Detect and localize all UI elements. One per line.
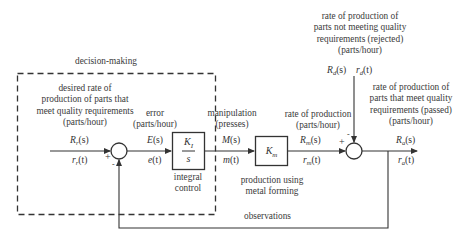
error-summing-junction bbox=[111, 143, 127, 159]
error-sum-minus-sign: - bbox=[112, 160, 115, 170]
decision-making-label: decision-making bbox=[75, 56, 137, 67]
rejected-laplace-symbol: Rd(s) bbox=[327, 64, 346, 75]
manipulation-desc-line-1: manipulation bbox=[200, 108, 264, 119]
manipulation-desc-line-2: (presses) bbox=[200, 119, 264, 130]
manipulation-description: manipulation (presses) bbox=[200, 108, 264, 131]
output-sum-minus-sign: - bbox=[347, 130, 350, 140]
production-desc-line-2: (parts/hour) bbox=[278, 120, 358, 131]
process-caption-line-1: production using bbox=[232, 175, 312, 186]
reference-laplace-symbol: Rr(s) bbox=[70, 134, 89, 145]
production-laplace-symbol: Rm(s) bbox=[300, 134, 321, 145]
controller-caption-line-2: control bbox=[163, 183, 213, 194]
reference-desc-line-3: meet quality requirements bbox=[25, 106, 145, 117]
rejected-desc-line-2: parts not meeting quality bbox=[300, 22, 420, 33]
reference-desc-line-1: desired rate of bbox=[25, 83, 145, 94]
rejected-desc-line-4: (parts/hour) bbox=[300, 45, 420, 56]
reference-desc-line-2: production of parts that bbox=[25, 94, 145, 105]
passed-desc-line-3: requirements (passed) bbox=[355, 105, 467, 116]
passed-time-symbol: ra(t) bbox=[398, 154, 414, 165]
reference-time-symbol: rr(t) bbox=[72, 154, 87, 165]
reference-description: desired rate of production of parts that… bbox=[25, 83, 145, 128]
rejected-time-symbol: rd(t) bbox=[356, 64, 372, 75]
passed-desc-line-2: parts that meet quality bbox=[355, 93, 467, 104]
error-desc-line-2: (parts/hour) bbox=[130, 119, 180, 130]
error-desc-line-1: error bbox=[130, 108, 180, 119]
rejected-description: rate of production of parts not meeting … bbox=[300, 11, 420, 56]
controller-denominator: s bbox=[172, 153, 205, 164]
passed-desc-line-4: (parts/hour) bbox=[355, 116, 467, 127]
controller-caption-line-1: integral bbox=[163, 172, 213, 183]
rejected-desc-line-3: requirements (rejected) bbox=[300, 34, 420, 45]
error-time-symbol: e(t) bbox=[148, 154, 161, 165]
passed-laplace-symbol: Ra(s) bbox=[396, 134, 415, 145]
process-caption: production using metal forming bbox=[232, 175, 312, 198]
production-desc-line-1: rate of production bbox=[278, 109, 358, 120]
passed-description: rate of production of parts that meet qu… bbox=[355, 82, 467, 127]
controller-numerator: KI bbox=[172, 136, 205, 150]
feedback-label: observations bbox=[244, 211, 291, 222]
process-gain: Km bbox=[255, 145, 288, 159]
error-description: error (parts/hour) bbox=[130, 108, 180, 131]
passed-desc-line-1: rate of production of bbox=[355, 82, 467, 93]
manipulation-laplace-symbol: M(s) bbox=[222, 134, 240, 145]
production-time-symbol: rm(t) bbox=[303, 154, 321, 165]
controller-caption: integral control bbox=[163, 172, 213, 195]
output-sum-plus-sign: + bbox=[339, 137, 345, 147]
output-summing-junction bbox=[346, 143, 362, 159]
production-description: rate of production (parts/hour) bbox=[278, 109, 358, 132]
reference-desc-line-4: (parts/hour) bbox=[25, 117, 145, 128]
error-laplace-symbol: E(s) bbox=[147, 134, 163, 145]
error-sum-plus-sign: + bbox=[105, 152, 111, 162]
rejected-desc-line-1: rate of production of bbox=[300, 11, 420, 22]
manipulation-time-symbol: m(t) bbox=[223, 154, 239, 165]
process-caption-line-2: metal forming bbox=[232, 186, 312, 197]
